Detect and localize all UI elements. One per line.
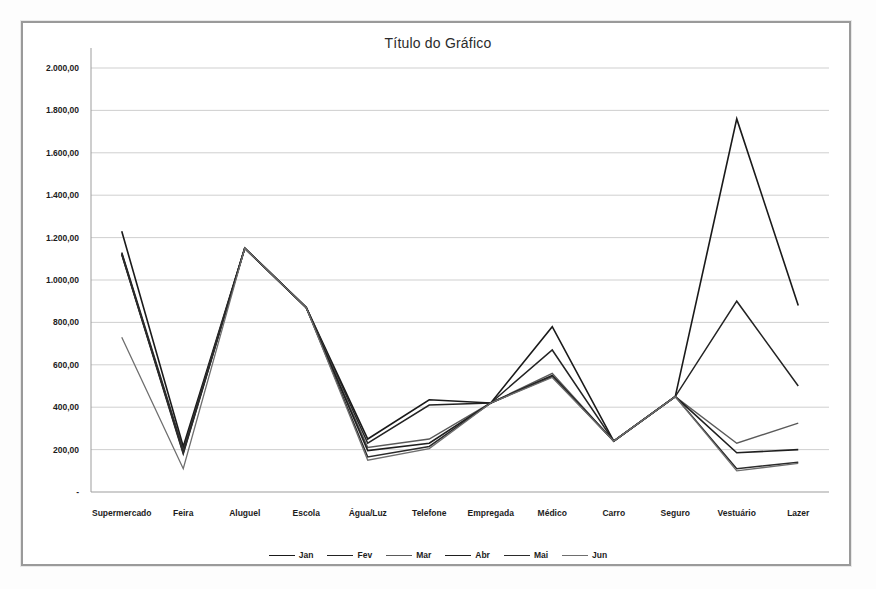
- legend-line-swatch-icon: [269, 555, 295, 556]
- legend-item-fev[interactable]: Fev: [327, 550, 372, 560]
- x-tick-label: Médico: [538, 508, 567, 518]
- series-line-jun[interactable]: [122, 248, 799, 471]
- series-line-fev[interactable]: [122, 248, 799, 449]
- x-tick-label: Água/Luz: [349, 508, 387, 518]
- legend-label: Mai: [534, 550, 548, 560]
- x-tick-label: Empregada: [468, 508, 515, 518]
- legend-line-swatch-icon: [327, 555, 353, 556]
- x-tick-label: Supermercado: [92, 508, 152, 518]
- x-tick-label: Feira: [173, 508, 194, 518]
- legend-line-swatch-icon: [504, 555, 530, 556]
- series-line-jan[interactable]: [122, 119, 799, 447]
- y-tick-label: 2.000,00: [46, 63, 79, 73]
- y-tick-label: 1.400,00: [46, 190, 79, 200]
- x-tick-label: Lazer: [787, 508, 810, 518]
- chart-legend: JanFevMarAbrMaiJun: [23, 550, 853, 560]
- x-tick-label: Telefone: [412, 508, 447, 518]
- legend-label: Jun: [592, 550, 607, 560]
- legend-item-mai[interactable]: Mai: [504, 550, 548, 560]
- y-tick-label: 1.600,00: [46, 148, 79, 158]
- y-tick-label: 600,00: [53, 360, 79, 370]
- x-tick-label: Carro: [602, 508, 625, 518]
- chart-frame: Título do Gráfico -200,00400,00600,00800…: [21, 21, 851, 566]
- x-tick-label: Vestuário: [718, 508, 756, 518]
- y-tick-label: 1.800,00: [46, 105, 79, 115]
- line-chart-plot: -200,00400,00600,00800,001.000,001.200,0…: [23, 23, 853, 568]
- y-tick-label: -: [76, 487, 79, 497]
- legend-label: Fev: [357, 550, 372, 560]
- y-tick-label: 200,00: [53, 445, 79, 455]
- legend-item-jun[interactable]: Jun: [562, 550, 607, 560]
- series-lines-group: [122, 119, 799, 471]
- y-axis-tick-labels: -200,00400,00600,00800,001.000,001.200,0…: [46, 63, 79, 497]
- y-tick-label: 1.000,00: [46, 275, 79, 285]
- legend-item-abr[interactable]: Abr: [445, 550, 490, 560]
- x-tick-label: Escola: [293, 508, 321, 518]
- chart-area: Título do Gráfico -200,00400,00600,00800…: [23, 23, 853, 568]
- legend-line-swatch-icon: [445, 555, 471, 556]
- y-tick-label: 400,00: [53, 402, 79, 412]
- series-line-mai[interactable]: [122, 248, 799, 468]
- y-tick-label: 1.200,00: [46, 233, 79, 243]
- x-tick-label: Aluguel: [229, 508, 260, 518]
- screenshot-root: Título do Gráfico -200,00400,00600,00800…: [0, 0, 876, 589]
- legend-label: Mar: [416, 550, 431, 560]
- legend-item-jan[interactable]: Jan: [269, 550, 314, 560]
- legend-item-mar[interactable]: Mar: [386, 550, 431, 560]
- legend-line-swatch-icon: [386, 555, 412, 556]
- legend-line-swatch-icon: [562, 555, 588, 556]
- legend-label: Jan: [299, 550, 314, 560]
- y-tick-label: 800,00: [53, 317, 79, 327]
- x-tick-label: Seguro: [661, 508, 690, 518]
- x-axis-tick-labels: SupermercadoFeiraAluguelEscolaÁgua/LuzTe…: [92, 508, 810, 518]
- legend-label: Abr: [475, 550, 490, 560]
